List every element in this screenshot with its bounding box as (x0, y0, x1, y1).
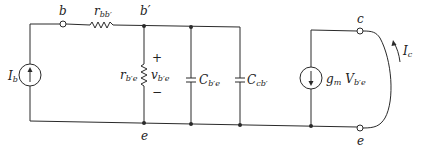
label-node-b: b (59, 4, 67, 18)
junction-b-prime (142, 24, 146, 28)
wire-top-2 (66, 24, 90, 25)
label-minus: − (152, 85, 162, 99)
terminal-e (357, 125, 363, 131)
label-rbb: rbb′ (94, 4, 112, 19)
label-node-e-terminal: e (357, 134, 364, 148)
label-node-c: c (357, 12, 364, 26)
junction-bottom-cbe (189, 122, 193, 126)
label-ccb: Ccb′ (247, 73, 268, 88)
junction-e (142, 121, 146, 125)
external-loop-wire (363, 31, 391, 128)
label-plus: + (152, 51, 162, 65)
ic-arrow (392, 40, 401, 62)
arrow-down-icon (309, 81, 314, 86)
current-source-ib (19, 64, 41, 86)
junction-bottom-gm (309, 124, 313, 128)
label-node-e: e (141, 129, 148, 143)
label-ic: Ic (402, 44, 413, 59)
dependent-current-source-gm (300, 67, 322, 89)
wire-top-3 (113, 25, 240, 27)
label-ib: Ib (7, 69, 18, 84)
wire-bottom (30, 121, 357, 127)
label-gm-vbe: gmVb′e (326, 72, 366, 87)
label-cbe: Cb′e (199, 73, 220, 88)
junction-top-cbe (189, 25, 193, 29)
arrow-up-icon (28, 67, 33, 72)
label-vbe: vb′e (151, 68, 170, 83)
resistor-rbb (90, 22, 113, 28)
resistor-rbe (141, 64, 147, 86)
circuit-diagram: b rbb′ b′ Ib rb′e vb′e + − Cb′e Ccb′ gmV… (0, 0, 421, 148)
terminal-b (60, 21, 66, 27)
wire-c-top (311, 30, 357, 31)
label-node-b-prime: b′ (140, 4, 151, 18)
terminal-c (357, 28, 363, 34)
arrow-icon (392, 40, 397, 46)
junction-bottom-ccb (238, 123, 242, 127)
label-rbe: rb′e (120, 68, 138, 83)
